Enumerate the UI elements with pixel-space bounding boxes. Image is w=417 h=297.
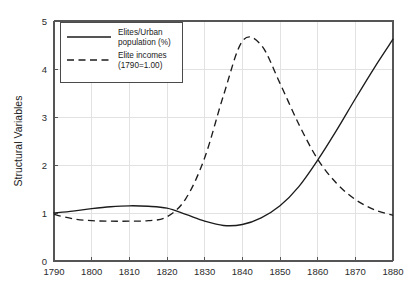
x-tick-label: 1860 bbox=[307, 266, 328, 277]
x-tick-label: 1850 bbox=[269, 266, 290, 277]
x-tick-label: 1870 bbox=[345, 266, 366, 277]
legend-label-1-line1: Elites/Urban bbox=[118, 28, 163, 37]
legend-label-2-line1: Elite incomes bbox=[118, 51, 167, 60]
y-axis-title: Structural Variables bbox=[12, 96, 24, 187]
chart-figure: 1790180018101820183018401850186018701880… bbox=[0, 0, 417, 297]
chart-legend: Elites/Urban population (%) Elite income… bbox=[60, 22, 182, 82]
legend-label-2-line2: (1790=1.00) bbox=[118, 61, 163, 70]
y-tick-label: 1 bbox=[42, 208, 47, 219]
x-tick-label: 1800 bbox=[81, 266, 102, 277]
y-tick-label: 4 bbox=[42, 64, 47, 75]
x-tick-label: 1840 bbox=[232, 266, 253, 277]
y-tick-label: 2 bbox=[42, 160, 47, 171]
y-tick-labels: 012345 bbox=[42, 16, 47, 267]
x-tick-label: 1810 bbox=[119, 266, 140, 277]
y-tick-label: 3 bbox=[42, 112, 47, 123]
x-tick-label: 1790 bbox=[43, 266, 64, 277]
legend-label-1-line2: population (%) bbox=[118, 38, 171, 47]
x-tick-label: 1880 bbox=[382, 266, 403, 277]
y-tick-label: 5 bbox=[42, 16, 47, 27]
x-tick-label: 1830 bbox=[194, 266, 215, 277]
y-tick-label: 0 bbox=[42, 256, 47, 267]
x-tick-label: 1820 bbox=[156, 266, 177, 277]
x-tick-labels: 1790180018101820183018401850186018701880 bbox=[43, 266, 403, 277]
chart-svg: 1790180018101820183018401850186018701880… bbox=[0, 0, 417, 297]
